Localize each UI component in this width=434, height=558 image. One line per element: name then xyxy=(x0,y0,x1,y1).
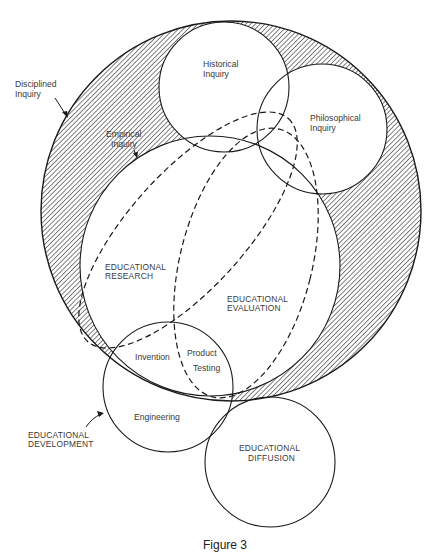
disciplined-inquiry-arrow xyxy=(55,98,68,118)
empirical-inquiry-label-2: Inquiry xyxy=(111,139,137,149)
historical-inquiry-label-1: Historical xyxy=(203,59,238,69)
invention-label: Invention xyxy=(135,352,170,362)
empirical-inquiry-label-1: Empirical xyxy=(106,129,141,139)
educational-development-arrow xyxy=(86,411,104,427)
philosophical-inquiry-label-2: Inquiry xyxy=(310,123,336,133)
philosophical-inquiry-label-1: Philosophical xyxy=(310,113,361,123)
disciplined-inquiry-label-2: Inquiry xyxy=(15,89,41,99)
educational-evaluation-label-2: EVALUATION xyxy=(227,303,281,313)
venn-diagram: Disciplined Inquiry Empirical Inquiry Hi… xyxy=(0,0,434,558)
historical-inquiry-label-2: Inquiry xyxy=(203,69,229,79)
figure-caption: Figure 3 xyxy=(203,538,247,552)
engineering-label: Engineering xyxy=(134,412,180,422)
product-testing-label-2: Testing xyxy=(193,363,220,373)
product-testing-label-1: Product xyxy=(187,348,217,358)
educational-research-label-2: RESEARCH xyxy=(105,271,153,281)
disciplined-inquiry-label-1: Disciplined xyxy=(15,79,57,89)
educational-diffusion-label-1: EDUCATIONAL xyxy=(239,443,300,453)
educational-diffusion-label-2: DIFFUSION xyxy=(248,453,295,463)
educational-development-label-2: DEVELOPMENT xyxy=(28,439,94,449)
